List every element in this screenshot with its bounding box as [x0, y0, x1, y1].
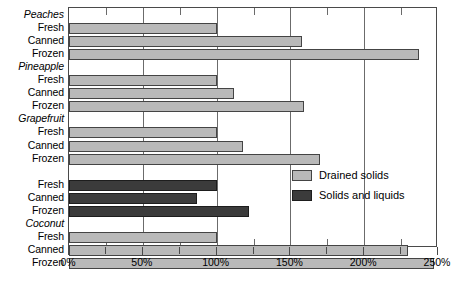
bar [69, 232, 217, 243]
category-label: Canned [0, 86, 64, 98]
x-tick-75 [179, 247, 180, 254]
x-tick-100 [216, 247, 217, 255]
minor-tick-75 [180, 8, 181, 15]
category-label: Fresh [0, 73, 64, 85]
plot-area [68, 7, 437, 247]
category-label-column: PeachesFreshCannedFrozenPineappleFreshCa… [0, 0, 68, 285]
minor-tick-225 [401, 8, 402, 15]
x-tick-label: 50% [131, 256, 152, 268]
x-tick-200 [363, 247, 364, 255]
category-label: Canned [0, 191, 64, 203]
group-label-pineapple: Pineapple [0, 60, 64, 72]
legend-swatch [292, 170, 312, 181]
x-tick-label: 250% [424, 256, 451, 268]
legend-label: Solids and liquids [319, 189, 405, 202]
category-label: Fresh [0, 21, 64, 33]
x-tick-50 [142, 247, 143, 255]
x-tick-label: 150% [276, 256, 303, 268]
x-tick-175 [326, 247, 327, 254]
bar [69, 36, 302, 47]
legend-item: Drained solids [292, 167, 442, 183]
group-label-peaches: Peaches [0, 8, 64, 20]
legend: Drained solidsSolids and liquids [292, 167, 442, 207]
x-tick-label: 0% [60, 256, 75, 268]
bar [69, 49, 419, 60]
minor-tick-175 [327, 8, 328, 15]
x-tick-label: 200% [350, 256, 377, 268]
bar [69, 141, 243, 152]
category-label: Canned [0, 139, 64, 151]
category-label: Frozen [0, 204, 64, 216]
x-axis-tick-labels: 0%50%100%150%200%250% [0, 256, 457, 272]
group-label-coconut: Coconut [0, 217, 64, 229]
bar [69, 154, 320, 165]
bar-chart: PeachesFreshCannedFrozenPineappleFreshCa… [0, 0, 457, 285]
category-label: Fresh [0, 125, 64, 137]
bar [69, 193, 197, 204]
category-label: Frozen [0, 47, 64, 59]
x-tick-125 [253, 247, 254, 254]
gridline-200 [364, 8, 365, 246]
bar [69, 23, 217, 34]
category-label: Canned [0, 243, 64, 255]
category-label: Frozen [0, 99, 64, 111]
bar [69, 101, 304, 112]
category-label: Canned [0, 34, 64, 46]
legend-swatch [292, 190, 312, 201]
x-tick-label: 100% [202, 256, 229, 268]
category-label: Frozen [0, 152, 64, 164]
x-tick-0 [68, 247, 69, 255]
minor-tick-125 [254, 8, 255, 15]
x-tick-25 [105, 247, 106, 254]
category-label: Fresh [0, 230, 64, 242]
bar [69, 127, 217, 138]
bar [69, 206, 249, 217]
x-tick-250 [437, 247, 438, 255]
legend-item: Solids and liquids [292, 187, 442, 203]
minor-tick-25 [106, 8, 107, 15]
legend-label: Drained solids [319, 169, 389, 182]
bar [69, 75, 217, 86]
x-tick-150 [289, 247, 290, 255]
group-label-grapefruit: Grapefruit [0, 112, 64, 124]
x-tick-225 [400, 247, 401, 254]
category-label: Fresh [0, 178, 64, 190]
bar [69, 88, 234, 99]
x-axis-ticks [68, 247, 437, 255]
bar [69, 180, 217, 191]
